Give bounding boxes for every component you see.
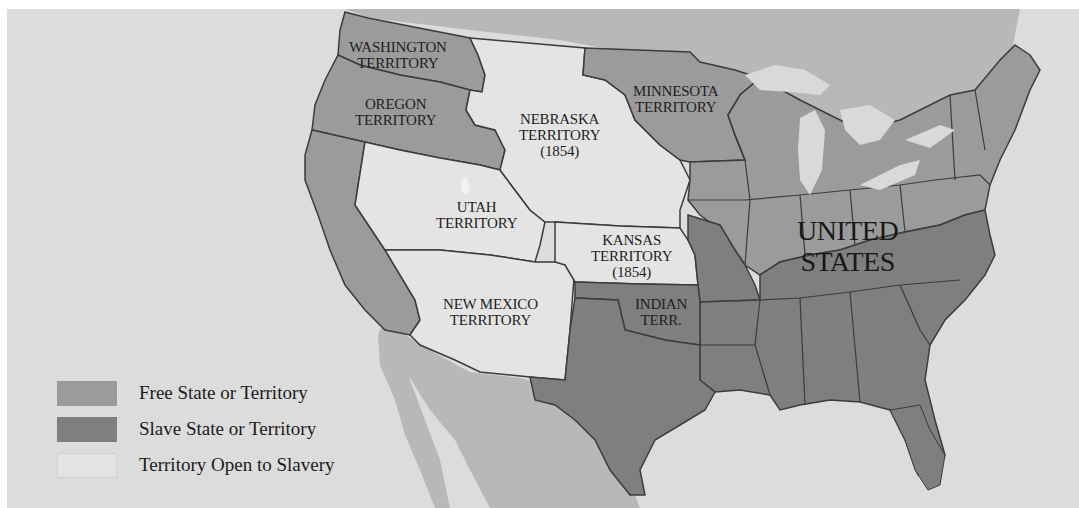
- legend-label-free: Free State or Territory: [139, 382, 308, 404]
- region-florida: [890, 405, 945, 490]
- legend-swatch-free: [57, 381, 117, 406]
- legend-label-slave: Slave State or Territory: [139, 418, 316, 440]
- legend-item-slave: Slave State or Territory: [57, 414, 334, 444]
- label-new-mexico-territory: NEW MEXICO TERRITORY: [443, 296, 538, 328]
- label-minnesota-territory: MINNESOTA TERRITORY: [633, 83, 718, 115]
- legend-swatch-slave: [57, 417, 117, 442]
- map-frame: WASHINGTON TERRITORY OREGON TERRITORY NE…: [7, 9, 1079, 508]
- label-utah-territory: UTAH TERRITORY: [436, 199, 517, 231]
- legend-swatch-open: [57, 453, 117, 478]
- label-indian-territory: INDIAN TERR.: [635, 296, 687, 328]
- label-washington-territory: WASHINGTON TERRITORY: [349, 39, 447, 71]
- label-oregon-territory: OREGON TERRITORY: [355, 96, 436, 128]
- legend-item-free: Free State or Territory: [57, 378, 334, 408]
- legend-label-open: Territory Open to Slavery: [139, 454, 334, 476]
- label-nebraska-territory: NEBRASKA TERRITORY (1854): [519, 111, 600, 160]
- label-united-states: UNITED STATES: [797, 216, 898, 278]
- legend-item-open: Territory Open to Slavery: [57, 450, 334, 480]
- label-kansas-territory: KANSAS TERRITORY (1854): [591, 232, 672, 281]
- map-legend: Free State or Territory Slave State or T…: [57, 378, 334, 486]
